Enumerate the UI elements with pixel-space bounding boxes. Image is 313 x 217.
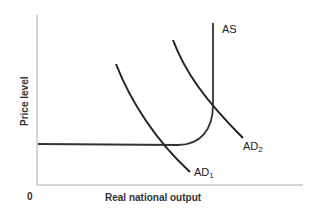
ad2-subscript: 2 [258, 145, 262, 154]
y-axis-label: Price level [19, 77, 30, 126]
ad1-label: AD1 [194, 166, 214, 180]
origin-label: 0 [27, 191, 33, 202]
ad2-label-text: AD [243, 140, 258, 152]
ad1-subscript: 1 [209, 171, 213, 180]
ad1-curve [116, 64, 190, 172]
ad2-curve [173, 40, 243, 138]
as-label: AS [222, 23, 237, 35]
ad1-label-text: AD [194, 166, 209, 178]
as-label-text: AS [222, 23, 237, 35]
ad2-label: AD2 [243, 140, 263, 154]
ad-as-diagram [0, 0, 313, 217]
x-axis-label: Real national output [105, 192, 201, 203]
